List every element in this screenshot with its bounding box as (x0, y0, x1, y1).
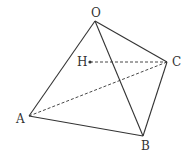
edge-OC (95, 21, 167, 62)
edge-OB (95, 21, 143, 136)
point-H (88, 60, 91, 63)
label-C: C (172, 55, 181, 69)
edge-AB (29, 116, 143, 136)
label-O: O (91, 6, 101, 20)
edge-AC-hidden (29, 62, 167, 116)
label-A: A (15, 112, 25, 126)
tetrahedron-diagram: O H C A B (0, 0, 191, 157)
label-B: B (141, 139, 150, 153)
edge-BC (143, 62, 167, 136)
label-H: H (77, 55, 87, 69)
